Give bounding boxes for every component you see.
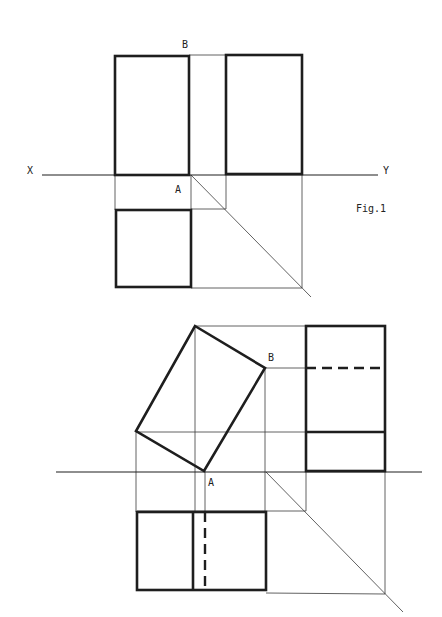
fig1-label-a: A: [175, 184, 181, 195]
fig1-miter-line: [191, 175, 311, 297]
fig1-front-view: [115, 56, 189, 175]
fig2-side-view: [306, 326, 385, 471]
fig2-plan-view: [137, 512, 266, 590]
fig1-side-view: [226, 55, 302, 174]
figure-2: B A: [56, 326, 422, 612]
fig2-label-a: A: [208, 477, 214, 488]
figure-1: X Y B A Fig.1: [27, 39, 389, 297]
orthographic-projection-drawing: X Y B A Fig.1 B A: [0, 0, 442, 617]
fig2-projector-plan-bottom: [266, 593, 385, 594]
fig1-label-b: B: [182, 39, 188, 50]
fig1-label-x: X: [27, 165, 33, 176]
fig1-caption: Fig.1: [356, 203, 386, 214]
fig1-label-y: Y: [383, 165, 389, 176]
fig2-tilted-front-view: [136, 326, 265, 471]
fig1-plan-view: [116, 210, 191, 287]
fig2-miter-line: [266, 472, 403, 612]
fig2-label-b: B: [268, 352, 274, 363]
